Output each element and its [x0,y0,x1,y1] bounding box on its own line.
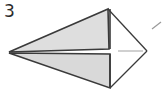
figure-canvas: 3 [0,0,164,91]
figure-number-label: 3 [4,1,15,21]
paper-airplane-wedge-diagram [0,0,164,91]
